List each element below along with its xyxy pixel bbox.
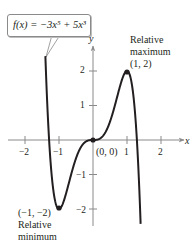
point-origin (90, 137, 95, 142)
x-tick-label: 2 (158, 147, 163, 158)
y-axis-label: y (89, 33, 93, 44)
y-tick-label: −1 (76, 170, 86, 181)
x-axis-label: x (185, 135, 189, 146)
max-coordinate-label: (1, 2) (130, 58, 152, 69)
origin-label: (0, 0) (96, 146, 118, 157)
min-coordinate-label: (−1, −2) (18, 207, 51, 218)
max-annotation-line1: Relative (130, 34, 163, 45)
point-max (124, 69, 129, 74)
y-tick-label: −2 (76, 205, 86, 216)
callout-pointer (46, 35, 60, 57)
x-tick-label: −2 (19, 147, 29, 158)
point-min (56, 205, 61, 210)
y-tick-label: 2 (80, 65, 85, 76)
function-callout: f(x) = −3x⁵ + 5x³ (7, 14, 91, 37)
x-tick-label: −1 (53, 147, 63, 158)
y-tick-label: 1 (80, 100, 85, 111)
min-annotation-line1: Relative (18, 219, 51, 230)
function-label: f(x) = −3x⁵ + 5x³ (13, 19, 86, 30)
min-annotation-line2: minimum (18, 231, 57, 242)
x-tick-label: 1 (124, 147, 129, 158)
max-annotation-line2: maximum (130, 46, 171, 57)
